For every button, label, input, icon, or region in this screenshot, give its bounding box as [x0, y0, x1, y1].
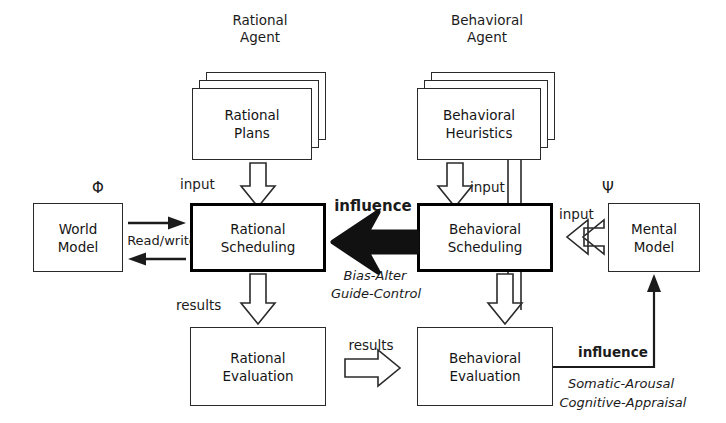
diagram-canvas: Rational Plans Behavioral Heuristics Wor… — [0, 0, 726, 423]
influence-thick-arrow — [333, 212, 417, 272]
influence-layer — [0, 0, 726, 423]
